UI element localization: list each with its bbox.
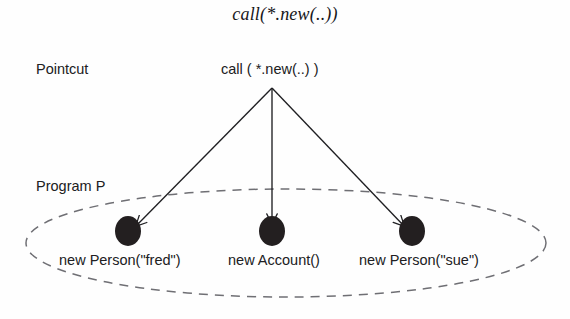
program-region-label: Program P xyxy=(36,179,105,194)
join-point-label-fred: new Person("fred") xyxy=(59,253,181,268)
join-point-dot-account xyxy=(259,216,285,246)
join-point-label-account: new Account() xyxy=(228,253,320,268)
pointcut-diagram-figure: call(*.new(..)) Pointcut call ( *.new(..… xyxy=(0,0,570,319)
program-region-ellipse xyxy=(26,189,546,297)
join-point-dot-fred xyxy=(115,216,141,246)
pointcut-expression-text: call ( *.new(..) ) xyxy=(221,62,319,77)
join-point-label-sue: new Person("sue") xyxy=(359,253,479,268)
diagram-canvas xyxy=(0,0,570,319)
pointcut-arrow-fred xyxy=(136,88,272,226)
join-point-dot-sue xyxy=(399,216,425,246)
pointcut-row-label: Pointcut xyxy=(36,62,88,77)
pointcut-arrow-sue xyxy=(272,88,404,226)
figure-title: call(*.new(..)) xyxy=(0,5,570,23)
